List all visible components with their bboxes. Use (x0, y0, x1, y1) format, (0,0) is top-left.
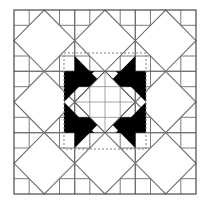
quilt-block-svg: Star quilt block pattern (0, 0, 210, 207)
quilt-diagram-root: Star quilt block pattern (0, 0, 210, 207)
